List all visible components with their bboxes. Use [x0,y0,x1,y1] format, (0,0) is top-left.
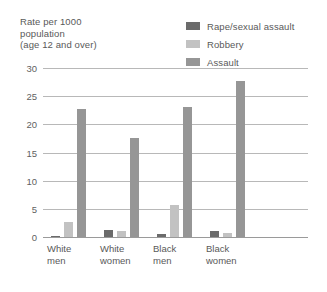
y-axis-tick-label: 15 [26,147,37,158]
x-axis-category-label-line: White [47,243,71,255]
x-axis-category-label-line: women [206,255,237,267]
y-axis-title: Rate per 1000 population (age 12 and ove… [20,16,170,51]
x-axis-category-label-line: women [100,255,131,267]
y-axis-tick-label: 10 [26,175,37,186]
y-axis-tick-label: 5 [32,203,37,214]
plot-area: 051015202530 [43,68,308,237]
gridline [43,96,308,97]
y-axis-tick-label: 20 [26,119,37,130]
y-axis-title-line-2: population [20,28,170,40]
x-axis-category-label-line: White [100,243,131,255]
bar [223,233,232,237]
bar [130,138,139,237]
legend-swatch-icon [186,22,200,30]
bar [117,231,126,237]
gridline [43,68,308,69]
y-axis-tick-label: 25 [26,91,37,102]
legend-item: Assault [186,55,326,69]
chart-legend: Rape/sexual assaultRobberyAssault [186,19,326,73]
x-axis-category-label-line: men [47,255,71,267]
bar [104,230,113,237]
bar [183,107,192,237]
y-axis-tick-label: 30 [26,63,37,74]
x-axis-category-label: Blackmen [153,243,176,266]
x-axis-category-label: Whitemen [47,243,71,266]
bar [64,222,73,237]
bar [157,234,166,237]
legend-item: Rape/sexual assault [186,19,326,33]
x-axis-category-label-line: men [153,255,176,267]
legend-swatch-icon [186,58,200,66]
bar [170,205,179,237]
bar [236,81,245,237]
bar [210,231,219,237]
chart-container: Rate per 1000 population (age 12 and ove… [0,0,327,292]
legend-item: Robbery [186,37,326,51]
y-axis-title-line-3: (age 12 and over) [20,39,170,51]
x-axis-category-label-line: Black [206,243,237,255]
x-axis-category-label: Blackwomen [206,243,237,266]
x-axis-line [43,237,308,238]
y-axis-title-line-1: Rate per 1000 [20,16,170,28]
y-axis-tick-label: 0 [32,232,37,243]
bar [77,109,86,237]
legend-item-label: Assault [207,57,239,68]
x-axis-category-label: Whitewomen [100,243,131,266]
x-axis-category-label-line: Black [153,243,176,255]
legend-item-label: Robbery [207,39,244,50]
legend-item-label: Rape/sexual assault [207,21,294,32]
legend-swatch-icon [186,40,200,48]
bar [51,236,60,237]
